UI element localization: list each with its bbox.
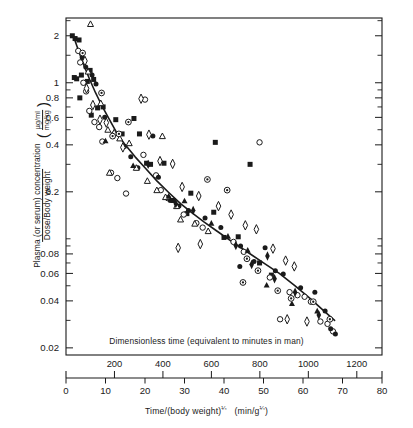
marker-open-triangle [87, 21, 93, 27]
marker-filled-circle [238, 243, 243, 248]
marker-open-circle [115, 175, 120, 180]
secondary-x-tick-label: 400 [155, 358, 171, 369]
marker-filled-triangle [208, 220, 214, 226]
x-tick-label: 0 [63, 385, 68, 396]
marker-open-circle [277, 317, 282, 322]
marker-filled-circle [203, 215, 208, 220]
marker-open-circle [92, 119, 97, 124]
marker-filled-circle [323, 308, 328, 313]
figure-container: 0.020.040.060.080.20.40.60.8120102030405… [0, 0, 413, 428]
marker-filled-circle [312, 290, 317, 295]
marker-filled-square [211, 210, 216, 215]
marker-dotted-circle-dot [100, 92, 102, 94]
series-dotted-circle [80, 50, 333, 322]
y-axis-label: Plasma (or serum) concentration Dose/Bod… [33, 81, 53, 291]
y-tick-label: 1 [54, 77, 59, 88]
marker-open-circle [81, 80, 86, 85]
x-tick-label: 50 [258, 385, 269, 396]
marker-dotted-circle-dot [111, 135, 113, 137]
marker-filled-square [79, 73, 84, 78]
marker-open-diamond [180, 182, 185, 191]
marker-dotted-circle-dot [226, 189, 228, 191]
marker-open-circle [96, 124, 101, 129]
scatter-plot: 0.020.040.060.080.20.40.60.8120102030405… [0, 0, 413, 428]
marker-filled-circle [156, 175, 161, 180]
secondary-x-tick-label: 200 [107, 358, 123, 369]
y-tick-label: 2 [54, 30, 59, 41]
marker-open-circle [302, 294, 307, 299]
marker-open-diamond [305, 317, 310, 326]
marker-dotted-circle-dot [329, 318, 331, 320]
secondary-x-tick-label: 800 [252, 358, 268, 369]
marker-open-diamond [271, 244, 276, 253]
marker-open-triangle [205, 228, 211, 234]
marker-open-diamond [216, 201, 221, 210]
marker-open-diamond [283, 256, 288, 265]
x-axis-label-text: Time/(body weight) [145, 406, 221, 416]
x-tick-label: 60 [298, 385, 309, 396]
marker-open-circle [141, 152, 146, 157]
marker-open-diamond [254, 225, 259, 234]
marker-open-diamond [229, 210, 234, 219]
marker-open-diamond [91, 100, 96, 109]
secondary-x-tick-label: 1200 [346, 358, 367, 369]
marker-open-diamond [292, 262, 297, 271]
marker-open-circle [287, 289, 292, 294]
marker-filled-square [113, 117, 118, 122]
x-tick-label: 80 [377, 385, 388, 396]
marker-open-diamond [147, 130, 152, 139]
marker-filled-circle [237, 264, 242, 269]
marker-open-diamond [170, 159, 175, 168]
y-axis-label-denominator: Dose/Body weight [43, 169, 53, 242]
y-axis-unit-paren-open: ( [35, 133, 52, 138]
marker-filled-circle [328, 326, 333, 331]
y-axis-unit-denominator: mg/kg [43, 110, 52, 130]
x-axis-unit-open: (min/g [234, 406, 259, 416]
y-axis-unit-numerator: µg/ml [35, 111, 43, 129]
marker-open-circle [318, 319, 323, 324]
marker-dotted-circle-dot [257, 269, 259, 271]
marker-open-circle [87, 108, 92, 113]
marker-open-diamond [198, 239, 203, 248]
y-axis-label-numerator: Plasma (or serum) concentration [33, 141, 42, 270]
marker-filled-circle [186, 208, 191, 213]
marker-dotted-circle-dot [127, 121, 129, 123]
marker-filled-circle [298, 285, 303, 290]
marker-open-circle [78, 60, 83, 65]
marker-filled-triangle [264, 282, 270, 288]
x-axis-label: Time/(body weight)¼ (min/g¼) [0, 404, 413, 416]
marker-filled-square [91, 77, 96, 82]
marker-filled-square [131, 116, 136, 121]
marker-filled-triangle [182, 198, 188, 204]
marker-filled-circle [263, 245, 268, 250]
series-filled-triangle [103, 138, 321, 314]
plot-frame [66, 18, 382, 355]
marker-filled-square [236, 234, 241, 239]
secondary-x-tick-label: 600 [204, 358, 220, 369]
marker-filled-square [213, 140, 218, 145]
marker-open-triangle [126, 140, 132, 146]
marker-open-circle [181, 212, 186, 217]
marker-open-diamond [196, 191, 201, 200]
marker-open-circle [200, 225, 205, 230]
series-open-triangle [85, 21, 211, 234]
marker-filled-square [248, 162, 253, 167]
secondary-axis-caption: Dimensionless time (equivalent to minute… [0, 336, 413, 346]
marker-filled-circle [273, 268, 278, 273]
marker-filled-square [77, 95, 82, 100]
marker-filled-circle [94, 82, 99, 87]
x-tick-label: 70 [337, 385, 348, 396]
marker-open-triangle [159, 133, 165, 139]
marker-open-circle [267, 275, 272, 280]
series-open-diamond [83, 56, 310, 326]
marker-filled-diamond [191, 206, 196, 215]
x-tick-label: 40 [219, 385, 230, 396]
marker-dotted-circle-dot [206, 178, 208, 180]
y-tick-label: 0.04 [40, 295, 59, 306]
marker-filled-diamond [265, 251, 270, 260]
y-axis-unit: µg/ml mg/kg [35, 110, 52, 130]
marker-filled-square [257, 260, 262, 265]
marker-filled-triangle [130, 162, 136, 168]
marker-filled-circle [281, 271, 286, 276]
marker-filled-circle [218, 225, 223, 230]
